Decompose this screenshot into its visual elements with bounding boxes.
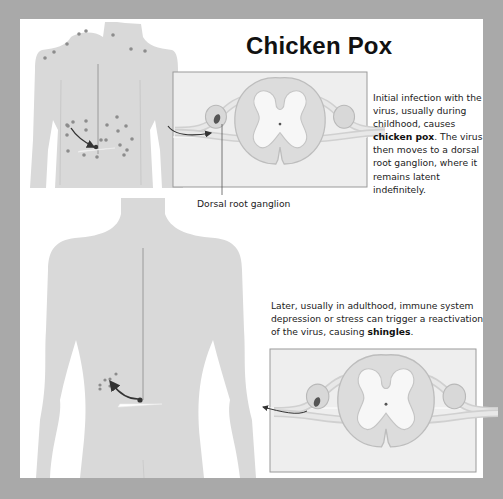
caption-bold-term: shingles: [367, 326, 410, 337]
caption-text: .: [411, 326, 414, 337]
bottom-spinal-cord-box: [263, 349, 498, 472]
page-title: Chicken Pox: [246, 32, 392, 60]
reactivation-caption: Later, usually in adulthood, immune syst…: [271, 299, 486, 338]
top-spinal-cord-box: [168, 72, 385, 195]
caption-text: Initial infection with the virus, usuall…: [373, 92, 482, 129]
ganglion-label: Dorsal root ganglion: [197, 198, 290, 209]
top-body-figure: [30, 22, 183, 188]
illustration-art: [0, 0, 503, 499]
initial-infection-caption: Initial infection with the virus, usuall…: [373, 91, 485, 196]
bottom-body-figure: [36, 198, 256, 478]
caption-bold-term: chicken pox: [373, 131, 434, 142]
